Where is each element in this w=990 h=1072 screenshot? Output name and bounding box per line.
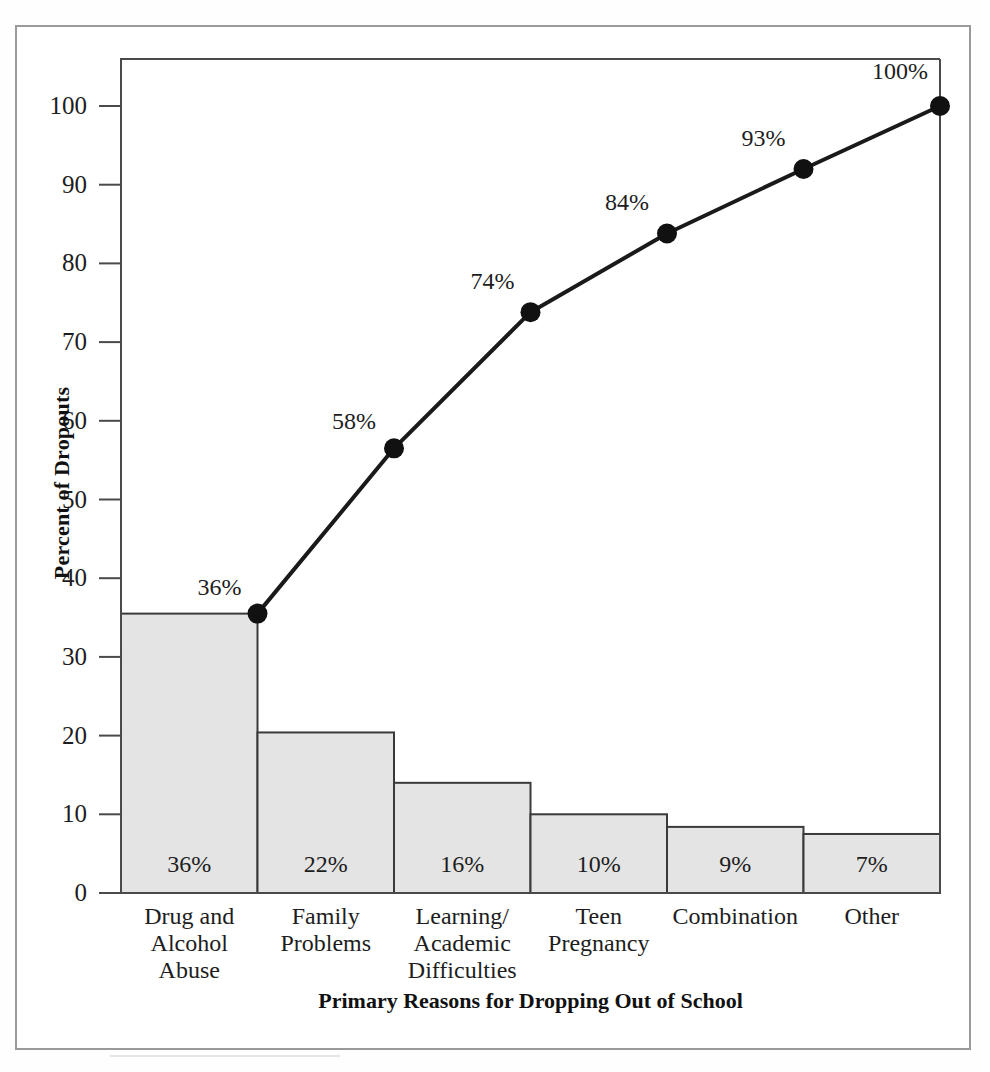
category-label-line: Other bbox=[786, 903, 959, 930]
bar-value-label: 16% bbox=[394, 851, 531, 878]
y-axis-tick-label: 0 bbox=[27, 880, 87, 905]
y-axis-tick-label: 90 bbox=[27, 172, 87, 197]
cumulative-data-point bbox=[521, 302, 541, 322]
cumulative-point-label: 100% bbox=[872, 58, 928, 85]
cumulative-data-point bbox=[794, 159, 814, 179]
cumulative-line bbox=[258, 106, 941, 614]
category-label: Other bbox=[786, 903, 959, 930]
cumulative-data-point bbox=[248, 604, 268, 624]
pareto-chart-figure: 0102030405060708090100 Percent of Dropou… bbox=[0, 0, 990, 1072]
category-label-line: Pregnancy bbox=[513, 930, 686, 957]
y-axis-tick-label: 70 bbox=[27, 329, 87, 354]
cumulative-data-point bbox=[930, 96, 950, 116]
cumulative-point-label: 84% bbox=[605, 189, 649, 216]
bar-value-label: 10% bbox=[531, 851, 668, 878]
cumulative-markers-group bbox=[248, 96, 951, 624]
cumulative-point-label: 36% bbox=[198, 574, 242, 601]
chart-page: 0102030405060708090100 Percent of Dropou… bbox=[0, 0, 990, 1072]
cumulative-point-label: 93% bbox=[742, 125, 786, 152]
cumulative-point-label: 58% bbox=[332, 408, 376, 435]
cumulative-line-group bbox=[258, 106, 941, 614]
y-axis-tick-label: 20 bbox=[27, 723, 87, 748]
bar-value-label: 36% bbox=[121, 851, 258, 878]
bar-value-label: 9% bbox=[667, 851, 804, 878]
cumulative-point-label: 74% bbox=[471, 268, 515, 295]
cumulative-data-point bbox=[657, 223, 677, 243]
y-axis-tick-label: 80 bbox=[27, 250, 87, 275]
category-label-line: Abuse bbox=[103, 957, 276, 984]
category-label-line: Difficulties bbox=[376, 957, 549, 984]
bar-value-label: 7% bbox=[804, 851, 941, 878]
y-axis-tick-label: 30 bbox=[27, 644, 87, 669]
x-axis-title: Primary Reasons for Dropping Out of Scho… bbox=[121, 988, 940, 1014]
y-axis-title: Percent of Dropouts bbox=[49, 353, 75, 613]
bar-value-label: 22% bbox=[258, 851, 395, 878]
y-axis-tick-label: 10 bbox=[27, 801, 87, 826]
y-axis-tick-label: 100 bbox=[27, 93, 87, 118]
cumulative-data-point bbox=[384, 438, 404, 458]
